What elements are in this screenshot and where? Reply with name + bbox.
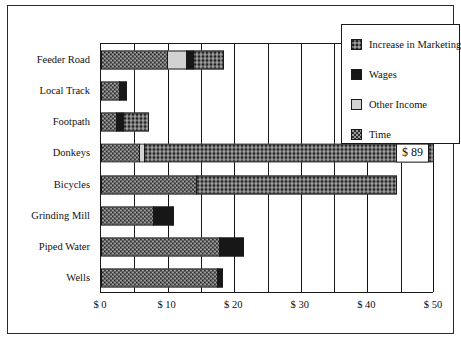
legend-item-increase-in-marketing[interactable]: Increase in Marketing xyxy=(351,38,461,51)
stacked-bar-piped-water[interactable] xyxy=(101,238,244,257)
legend-label: Wages xyxy=(369,69,397,80)
bar-segment-piped-water-wages[interactable] xyxy=(219,238,244,257)
bar-segment-local-track-time[interactable] xyxy=(101,81,120,100)
y-axis-label-piped-water: Piped Water xyxy=(39,241,90,252)
bar-row-piped-water xyxy=(101,232,433,263)
bar-segment-footpath-time[interactable] xyxy=(101,113,117,132)
bar-segment-feeder-road-time[interactable] xyxy=(101,50,168,69)
x-axis-tick-label-10: $ 10 xyxy=(157,299,175,310)
legend-label: Other Income xyxy=(369,99,427,110)
bar-row-bicycles xyxy=(101,169,433,200)
x-axis-tick-label-0: $ 0 xyxy=(93,299,106,310)
chart-outer-frame: $ 89 Feeder RoadLocal TrackFootpathDonke… xyxy=(7,5,454,334)
bar-segment-donkeys-increase-in-marketing[interactable] xyxy=(144,144,434,163)
chart-legend: Increase in MarketingWagesOther IncomeTi… xyxy=(341,24,460,144)
bar-segment-wells-wages[interactable] xyxy=(217,269,223,288)
stacked-bar-donkeys[interactable] xyxy=(101,144,434,163)
legend-swatch-icon-time xyxy=(351,129,362,140)
y-axis-label-footpath: Footpath xyxy=(53,116,90,127)
bar-segment-donkeys-time[interactable] xyxy=(101,144,140,163)
legend-item-wages[interactable]: Wages xyxy=(351,68,397,81)
legend-swatch-icon-increase-in-marketing xyxy=(351,39,362,50)
bar-segment-bicycles-time[interactable] xyxy=(101,175,197,194)
y-axis-label-donkeys: Donkeys xyxy=(53,147,90,158)
bar-segment-footpath-increase-in-marketing[interactable] xyxy=(123,113,149,132)
y-axis-label-grinding-mill: Grinding Mill xyxy=(31,209,90,220)
legend-label: Time xyxy=(369,129,391,140)
stacked-bar-footpath[interactable] xyxy=(101,113,149,132)
y-axis-label-bicycles: Bicycles xyxy=(54,178,90,189)
bar-value-label-donkeys: $ 89 xyxy=(396,144,429,163)
bar-segment-local-track-wages[interactable] xyxy=(119,81,127,100)
stacked-bar-feeder-road[interactable] xyxy=(101,50,224,69)
y-axis-label-feeder-road: Feeder Road xyxy=(37,53,90,64)
bar-segment-grinding-mill-time[interactable] xyxy=(101,206,154,225)
x-axis-labels: $ 0$ 10$ 20$ 30$ 40$ 50 xyxy=(100,299,433,317)
legend-swatch-icon-other-income xyxy=(351,99,362,110)
y-axis-label-local-track: Local Track xyxy=(40,84,90,95)
stacked-bar-grinding-mill[interactable] xyxy=(101,206,174,225)
stacked-bar-local-track[interactable] xyxy=(101,81,127,100)
legend-label: Increase in Marketing xyxy=(369,39,461,50)
bar-segment-feeder-road-increase-in-marketing[interactable] xyxy=(193,50,225,69)
stacked-bar-bicycles[interactable] xyxy=(101,175,397,194)
x-axis-tick-label-30: $ 30 xyxy=(291,299,309,310)
chart-screenshot: $ 89 Feeder RoadLocal TrackFootpathDonke… xyxy=(0,0,461,341)
bar-segment-piped-water-time[interactable] xyxy=(101,238,220,257)
bar-segment-bicycles-increase-in-marketing[interactable] xyxy=(196,175,397,194)
x-axis-tick-label-50: $ 50 xyxy=(424,299,442,310)
stacked-bar-wells[interactable] xyxy=(101,269,223,288)
legend-item-time[interactable]: Time xyxy=(351,128,391,141)
bar-row-grinding-mill xyxy=(101,200,433,231)
bar-segment-wells-time[interactable] xyxy=(101,269,218,288)
bar-row-wells xyxy=(101,263,433,294)
legend-swatch-icon-wages xyxy=(351,69,362,80)
bar-segment-grinding-mill-wages[interactable] xyxy=(153,206,174,225)
y-axis-label-wells: Wells xyxy=(66,272,90,283)
bar-segment-feeder-road-other-income[interactable] xyxy=(167,50,187,69)
legend-item-other-income[interactable]: Other Income xyxy=(351,98,427,111)
x-axis-tick-label-20: $ 20 xyxy=(224,299,242,310)
x-axis-tick-label-40: $ 40 xyxy=(357,299,375,310)
